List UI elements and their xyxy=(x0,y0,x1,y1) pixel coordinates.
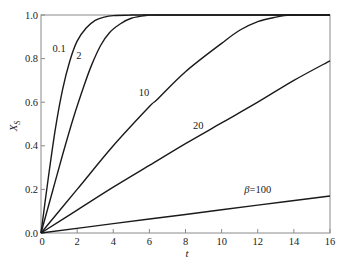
x-axis-ticks: 0246810121416 xyxy=(39,229,335,247)
x-tick-label: 14 xyxy=(289,236,300,247)
plot-frame xyxy=(41,15,330,233)
x-tick-label: 16 xyxy=(325,236,336,247)
x-tick-label: 12 xyxy=(253,236,264,247)
curve-labels: 0.121020β=100 xyxy=(53,43,272,195)
y-tick-label: 0.6 xyxy=(25,97,38,108)
curve-label: 0.1 xyxy=(53,43,66,54)
x-tick-label: 0 xyxy=(39,236,44,247)
y-tick-label: 1.0 xyxy=(25,10,38,21)
y-tick-label: 0.8 xyxy=(25,53,38,64)
y-tick-label: 0.4 xyxy=(25,140,39,151)
x-tick-label: 8 xyxy=(183,236,188,247)
series-line xyxy=(41,196,330,233)
chart: 0246810121416 0.00.20.40.60.81.0 0.12102… xyxy=(0,0,348,269)
x-tick-label: 2 xyxy=(75,236,80,247)
x-axis-label: t xyxy=(185,247,189,259)
y-axis-label: XS xyxy=(7,121,22,133)
curve-label: 10 xyxy=(139,87,150,98)
curve-label: 2 xyxy=(76,50,81,61)
data-series xyxy=(41,15,330,233)
series-line xyxy=(41,15,330,233)
curve-label: β=100 xyxy=(243,184,271,195)
x-tick-label: 6 xyxy=(147,236,152,247)
y-tick-label: 0.2 xyxy=(25,184,38,195)
svg-text:XS: XS xyxy=(7,121,22,133)
x-tick-label: 10 xyxy=(216,236,227,247)
series-line xyxy=(41,15,330,233)
series-line xyxy=(41,15,330,233)
x-tick-label: 4 xyxy=(111,236,117,247)
curve-label: 20 xyxy=(193,120,204,131)
y-axis-ticks: 0.00.20.40.60.81.0 xyxy=(25,10,45,239)
y-tick-label: 0.0 xyxy=(25,228,38,239)
y-axis-label-sub: S xyxy=(13,121,22,125)
